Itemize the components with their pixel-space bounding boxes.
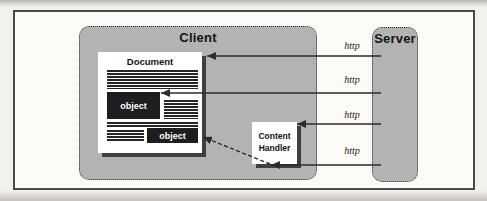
document-text-lines-right [164,100,198,119]
content-handler-box: Content Handler [252,122,297,164]
embedded-object-2: object [147,128,198,143]
document-text-lines-bottom-left [107,130,144,142]
http-label-3: http [330,109,374,120]
document-title: Document [98,56,202,67]
server-panel: Server [372,27,418,182]
http-label-4: http [330,145,374,156]
content-handler-label-line2: Handler [259,143,291,155]
http-label-2: http [330,74,374,85]
embedded-object-1-label: object [120,101,147,111]
embedded-object-1: object [107,92,160,119]
document-window: Document object object [98,52,202,153]
document-text-lines-top [107,70,198,89]
scanned-figure: Client Server Document object object Con… [0,0,487,201]
server-panel-title: Server [373,31,417,46]
figure-frame: Client Server Document object object Con… [13,10,475,190]
embedded-object-2-label: object [159,131,186,141]
http-label-1: http [330,40,374,51]
content-handler-label-line1: Content [258,131,290,143]
client-panel-title: Client [80,30,316,45]
